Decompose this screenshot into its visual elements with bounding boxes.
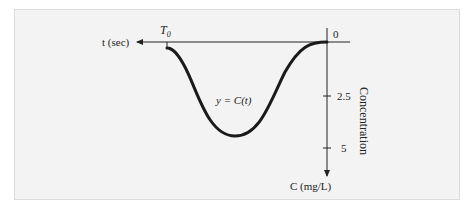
t0-label: T0 [160,23,171,39]
x-axis-label: t (sec) [102,36,130,49]
concentration-label: Concentration [357,87,371,155]
chart: 0 2.5 5 C (mg/L) t (sec) T0 y = C(t) Con… [0,0,470,212]
y-axis-label: C (mg/L) [290,180,332,193]
origin-label: 0 [333,28,339,40]
concentration-chart: 0 2.5 5 C (mg/L) t (sec) T0 y = C(t) Con… [0,0,470,212]
curve-c-of-t [167,42,327,136]
tick-label-5: 5 [341,142,347,154]
tick-label-2-5: 2.5 [337,90,351,102]
curve-label: y = C(t) [215,94,252,107]
